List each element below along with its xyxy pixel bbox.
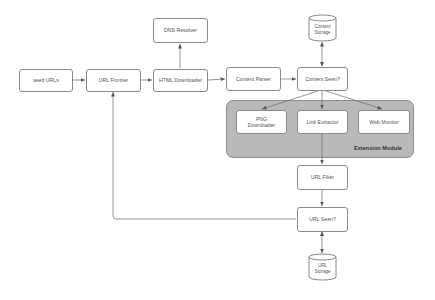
edge-downloader-parser [208,79,225,80]
url-filter-label: URL Filter [311,174,334,181]
edges-layer [0,0,435,300]
web-monitor-label: Web Monitor [369,119,398,126]
html-downloader-node: HTML Downloader [153,69,208,92]
png-downloader-node: PNG Downloader [236,110,287,134]
diagram-canvas: Extension Module [0,0,435,300]
url-seen-label: URL Seen? [309,216,336,223]
seed-urls-label: seed URLs [33,77,59,84]
url-frontier-label: URL Frontier [99,77,129,84]
content-parser-label: Content Parser [236,76,271,83]
url-filter-node: URL Filter [297,165,348,190]
url-seen-node: URL Seen? [297,207,348,232]
dns-resolver-node: DNS Resolver [153,18,208,43]
url-frontier-node: URL Frontier [86,69,141,92]
link-extractor-label: Link Extractor [307,119,339,126]
content-seen-node: Content Seen? [297,67,348,91]
edge-contentseen-webmonitor [326,91,382,109]
link-extractor-node: Link Extractor [297,110,348,134]
content-storage-label: Content Storage [309,24,336,35]
url-storage-label: URL Storage [309,263,336,274]
seed-urls-node: seed URLs [19,69,73,92]
content-parser-node: Content Parser [226,67,281,91]
web-monitor-node: Web Monitor [358,110,410,134]
png-downloader-line2: Downloader [248,122,276,129]
content-storage-line2: Storage [309,30,336,36]
content-seen-label: Content Seen? [305,76,340,83]
url-storage-line2: Storage [309,269,336,275]
dns-resolver-label: DNS Resolver [164,27,197,34]
edge-contentseen-png [262,91,318,109]
html-downloader-label: HTML Downloader [159,77,202,84]
